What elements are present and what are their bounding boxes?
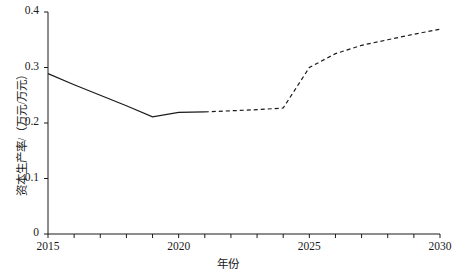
series-line-forecast xyxy=(205,29,440,112)
y-tick-label: 0 xyxy=(5,226,39,238)
capital-productivity-line-chart: 00.10.20.30.4 2015202020252030 年份 资本生产率/… xyxy=(0,0,456,278)
y-tick-label: 0.4 xyxy=(5,4,39,16)
x-tick-label: 2015 xyxy=(26,240,70,252)
x-tick-label: 2025 xyxy=(287,240,331,252)
y-axis-ticks xyxy=(44,12,48,234)
y-axis-title: 资本生产率/（万元/万元） xyxy=(13,69,29,196)
chart-plot-area xyxy=(0,0,456,278)
x-tick-label: 2020 xyxy=(157,240,201,252)
series-line-historical xyxy=(48,74,205,117)
x-tick-label: 2030 xyxy=(418,240,456,252)
x-axis-ticks xyxy=(48,234,440,238)
x-axis-title: 年份 xyxy=(0,255,456,271)
